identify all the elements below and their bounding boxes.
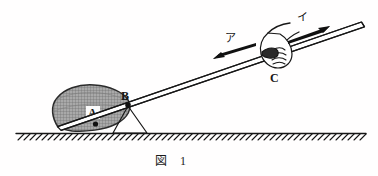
figure-container: A B bbox=[0, 0, 378, 176]
label-arrow-i: イ bbox=[297, 11, 308, 24]
caption-number: 1 bbox=[180, 154, 186, 168]
lever-diagram: A B bbox=[0, 0, 378, 176]
rod-bottom-edge bbox=[61, 27, 365, 131]
hand-thumb bbox=[262, 48, 278, 58]
hand-wrist-upper bbox=[268, 23, 290, 33]
ground-line bbox=[16, 134, 366, 141]
label-point-b: B bbox=[121, 89, 129, 103]
rod-top-edge bbox=[58, 22, 362, 127]
caption-label: 図 bbox=[155, 154, 167, 168]
hand-grip: C bbox=[260, 23, 299, 85]
ground-hatch bbox=[18, 134, 366, 140]
label-arrow-a: ア bbox=[225, 32, 236, 45]
fulcrum-point-b-dot bbox=[125, 102, 131, 108]
label-point-c: C bbox=[270, 71, 279, 85]
arrow-a-group: ア bbox=[213, 32, 256, 59]
figure-caption: 図 1 bbox=[155, 154, 186, 168]
contact-point-a-dot bbox=[93, 121, 98, 126]
rod-body bbox=[58, 22, 365, 130]
lever-rod bbox=[58, 22, 365, 130]
